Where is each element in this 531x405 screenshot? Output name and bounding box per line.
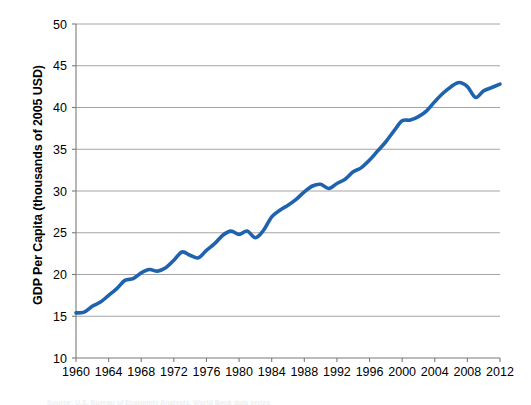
x-tick-label: 1968: [127, 365, 155, 379]
x-tick-label: 1996: [356, 365, 384, 379]
y-tick-label: 15: [53, 310, 67, 324]
x-tick-label: 2008: [453, 365, 481, 379]
x-tick-label: 2004: [421, 365, 449, 379]
y-tick-label: 20: [53, 268, 67, 282]
y-tick-label: 25: [53, 226, 67, 240]
x-tick-label: 1992: [323, 365, 351, 379]
source-caption: Source: U.S. Bureau of Economic Analysis…: [47, 398, 270, 405]
x-tick-label: 2012: [486, 365, 514, 379]
x-tick-label: 2000: [388, 365, 416, 379]
y-tick-label: 45: [53, 59, 67, 73]
x-tick-label: 1976: [193, 365, 221, 379]
plot-area: 101520253035404550 196019641968197219761…: [0, 0, 531, 405]
x-tick-label: 1972: [160, 365, 188, 379]
x-tick-label: 1960: [62, 365, 90, 379]
x-tick-label: 1984: [258, 365, 286, 379]
y-tick-label: 10: [53, 352, 67, 366]
y-tick-label: 30: [53, 185, 67, 199]
data-line-gdp-per-capita: [76, 82, 500, 312]
gdp-per-capita-chart: GDP Per Capita (thousands of 2005 USD) 1…: [0, 0, 531, 405]
x-tick-label: 1964: [95, 365, 123, 379]
y-axis-ticks-group: 101520253035404550: [53, 18, 76, 366]
y-tick-label: 35: [53, 143, 67, 157]
x-axis-ticks-group: 1960196419681972197619801984198819921996…: [62, 358, 514, 379]
x-tick-label: 1988: [290, 365, 318, 379]
y-tick-label: 40: [53, 101, 67, 115]
y-tick-label: 50: [53, 18, 67, 32]
x-tick-label: 1980: [225, 365, 253, 379]
